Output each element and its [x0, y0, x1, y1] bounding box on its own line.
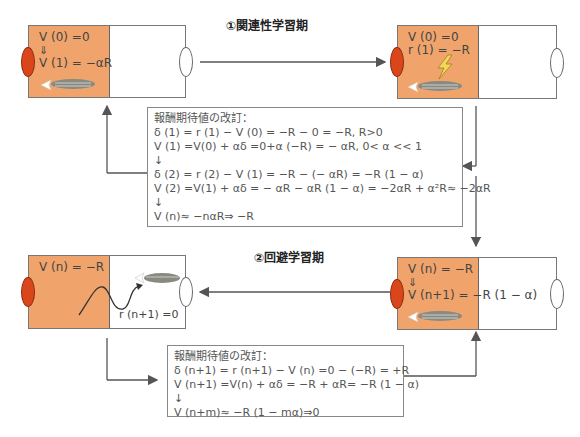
lightning-shock-icon — [432, 54, 458, 80]
dark-side-marker — [21, 277, 35, 307]
eq-line: V (1) =V(0) + αδ =0+α (−R) = − αR, 0< α … — [154, 140, 456, 154]
tank-value-vn: V (n) = −R — [408, 263, 473, 276]
phase2-title: ②回避学習期 — [254, 248, 324, 265]
eq-arrow: ↓ — [174, 392, 397, 406]
eq-line: δ (n+1) = r (n+1) − V (n) =0 − (−R) = +R — [174, 364, 397, 378]
phase1-equation-box: 報酬期待値の改訂： δ (1) = r (1) − V (0) = −R − 0… — [147, 107, 463, 227]
fish-icon — [134, 270, 182, 286]
light-side-marker — [550, 279, 564, 309]
dark-side-marker — [390, 47, 404, 77]
dark-side-marker — [21, 47, 35, 77]
tank-value-vn1: V (n+1) = −R (1 − α) — [408, 289, 537, 302]
eq-line: V (2) =V(1) + αδ = − αR − αR (1 − α) = −… — [154, 182, 456, 196]
eq-line: V (n+m)≈ −R (1 − mα)⇒0 — [174, 406, 397, 420]
tank-value-v0: V (0) =0 — [39, 31, 90, 44]
light-side-marker — [550, 48, 564, 78]
eq-arrow: ↓ — [154, 196, 456, 210]
eq-line: δ (1) = r (1) − V (0) = −R − 0 = −R, R>0 — [154, 126, 456, 140]
dark-side-marker — [390, 279, 404, 309]
eq-heading: 報酬期待値の改訂： — [174, 350, 397, 364]
eq-line: δ (2) = r (2) − V (1) = −R − (− αR) = −R… — [154, 168, 456, 182]
fish-icon — [406, 78, 466, 96]
light-side-marker — [179, 277, 193, 307]
phase1-tank-left: V (0) =0 ⇓ V (1) = −αR — [28, 25, 186, 98]
phase2-tank-left: V (n) = −R r (n+1) =0 — [28, 255, 186, 329]
fish-icon — [406, 308, 466, 326]
phase2-tank-right: V (n) = −R ⇓ V (n+1) = −R (1 − α) — [397, 257, 557, 330]
light-side-marker — [179, 47, 193, 77]
eq-heading: 報酬期待値の改訂： — [154, 112, 456, 126]
eq-line: V (n+1) =V(n) + αδ = −R + αR= −R (1 − α) — [174, 378, 397, 392]
tank-value-v1: V (1) = −αR — [39, 57, 112, 70]
fish-icon — [39, 76, 99, 94]
phase1-title: ①関連性学習期 — [226, 16, 308, 33]
phase2-equation-box: 報酬期待値の改訂： δ (n+1) = r (n+1) − V (n) =0 −… — [167, 345, 404, 417]
eq-arrow: ↓ — [154, 154, 456, 168]
reward-value: r (n+1) =0 — [119, 308, 179, 321]
phase1-tank-right: V (0) =0 r (1) = −R — [397, 25, 557, 99]
eq-line: V (n)≈ −nαR⇒ −R — [154, 210, 456, 224]
